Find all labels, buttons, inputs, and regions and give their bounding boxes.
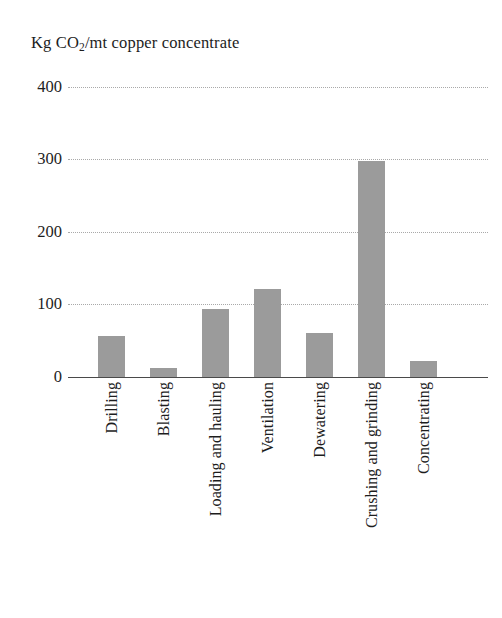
y-axis-tick-labels: 400 300 200 100 0 (0, 87, 62, 377)
y-tick-label-100: 100 (37, 296, 62, 313)
x-tick-label-ventilation: Ventilation (260, 382, 276, 453)
x-tick-dewatering: Dewatering (306, 382, 333, 602)
x-tick-ventilation: Ventilation (254, 382, 281, 602)
bar-ventilation (254, 289, 281, 377)
y-tick-label-300: 300 (37, 151, 62, 168)
bar-chart-figure: Kg CO2/mt copper concentrate 400 300 200… (0, 0, 502, 618)
x-tick-blasting: Blasting (150, 382, 177, 602)
chart-title: Kg CO2/mt copper concentrate (31, 33, 239, 53)
bar-concentrating (410, 361, 437, 377)
bar-drilling (98, 336, 125, 377)
x-axis-line (68, 377, 488, 378)
bar-blasting (150, 368, 177, 377)
chart-title-post: /mt copper concentrate (85, 33, 239, 52)
bar-dewatering (306, 333, 333, 377)
y-tick-label-0: 0 (54, 369, 62, 386)
x-tick-label-drilling: Drilling (104, 382, 120, 433)
x-tick-crushing-and-grinding: Crushing and grinding (358, 382, 385, 602)
x-tick-label-loading-and-hauling: Loading and hauling (208, 382, 224, 516)
x-tick-loading-and-hauling: Loading and hauling (202, 382, 229, 602)
bars-layer (68, 87, 488, 377)
x-tick-label-dewatering: Dewatering (312, 382, 328, 458)
bar-loading-and-hauling (202, 309, 229, 377)
x-tick-label-crushing-and-grinding: Crushing and grinding (364, 382, 380, 528)
x-axis-tick-labels: Drilling Blasting Loading and hauling Ve… (68, 382, 488, 612)
bar-crushing-and-grinding (358, 161, 385, 377)
y-tick-label-400: 400 (37, 79, 62, 96)
y-tick-label-200: 200 (37, 224, 62, 241)
chart-title-subscript: 2 (79, 41, 85, 53)
chart-title-pre: Kg CO (31, 33, 79, 52)
x-tick-label-concentrating: Concentrating (416, 382, 432, 474)
x-tick-label-blasting: Blasting (156, 382, 172, 436)
x-tick-concentrating: Concentrating (410, 382, 437, 602)
x-tick-drilling: Drilling (98, 382, 125, 602)
